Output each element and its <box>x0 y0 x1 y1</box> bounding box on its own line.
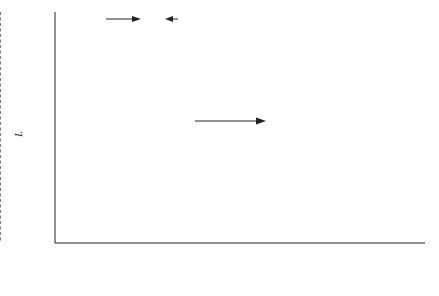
axes <box>55 12 425 243</box>
chart-canvas: L <box>0 0 439 296</box>
arrowhead-60min-icon <box>165 16 173 22</box>
y-axis-label: L <box>13 131 24 138</box>
volume-arrowhead-icon <box>256 118 266 125</box>
arrowhead-30min-icon <box>132 16 141 22</box>
